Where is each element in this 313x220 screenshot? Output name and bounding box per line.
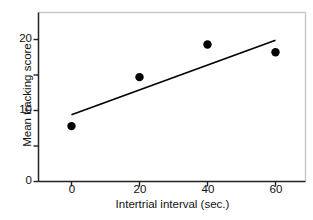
data-point [203,40,211,48]
regression-line [72,40,276,115]
plot-frame [39,13,306,182]
data-points [67,40,279,130]
plot-area [0,0,313,220]
chart-figure: Mean tracking score 20 10 0 0 20 40 60 I… [0,0,313,220]
axis-ticks [34,40,276,187]
data-point [271,48,279,56]
data-point [135,73,143,81]
data-point [67,122,75,130]
